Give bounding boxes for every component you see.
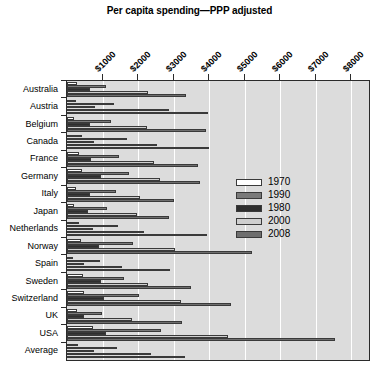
legend-swatch-1970 — [236, 179, 262, 186]
bar-uk-2008 — [67, 321, 182, 324]
x-axis-tick-labels: $1000$2000$3000$4000$5000$6000$7000$8000 — [0, 0, 379, 80]
y-axis-category-label: Norway — [27, 241, 58, 251]
y-axis-category-label: Germany — [21, 171, 58, 181]
gridline — [316, 81, 317, 360]
x-axis-tick-label: $2000 — [128, 49, 153, 74]
y-axis-category-label: Sweden — [25, 276, 58, 286]
y-axis-category-label: France — [30, 153, 58, 163]
bar-netherlands-2008 — [67, 234, 207, 237]
gridline — [209, 81, 210, 360]
chart-legend: 19701990198020002008 — [236, 176, 306, 241]
gridline — [351, 81, 352, 360]
legend-swatch-2008 — [236, 231, 262, 238]
bar-norway-2008 — [67, 251, 252, 254]
y-axis-category-label: Spain — [35, 258, 58, 268]
x-axis-tick-label: $5000 — [235, 49, 260, 74]
y-axis-category-label: Austria — [30, 101, 58, 111]
y-axis-category-label: Belgium — [25, 119, 58, 129]
y-axis-category-label: USA — [39, 328, 58, 338]
y-axis-category-label: Netherlands — [9, 223, 58, 233]
legend-item-2008: 2008 — [236, 228, 306, 240]
bar-belgium-2008 — [67, 129, 206, 132]
legend-label-2000: 2000 — [268, 215, 290, 227]
legend-swatch-2000 — [236, 218, 262, 225]
y-axis-category-label: Australia — [23, 84, 58, 94]
legend-item-2000: 2000 — [236, 215, 306, 227]
bar-spain-2008 — [67, 269, 170, 272]
x-axis-tick-label: $1000 — [92, 49, 117, 74]
y-axis-category-label: Italy — [41, 188, 58, 198]
x-axis-tick-label: $3000 — [164, 49, 189, 74]
gridline — [174, 81, 175, 360]
bar-average-2008 — [67, 356, 185, 359]
x-axis-tick-label: $7000 — [306, 49, 331, 74]
x-axis-tick-label: $6000 — [270, 49, 295, 74]
bar-canada-2008 — [67, 147, 209, 150]
bar-usa-2008 — [67, 338, 335, 341]
chart-root: Per capita spending—PPP adjusted $1000$2… — [0, 0, 379, 392]
bar-sweden-2008 — [67, 286, 191, 289]
y-axis-category-label: Average — [25, 345, 58, 355]
legend-item-1980: 1980 — [236, 202, 306, 214]
legend-item-1990: 1990 — [236, 189, 306, 201]
y-axis-category-label: Switzerland — [11, 293, 58, 303]
plot-area — [66, 80, 370, 361]
legend-label-1980: 1980 — [268, 202, 290, 214]
bar-switzerland-2008 — [67, 303, 231, 306]
bar-austria-2008 — [67, 112, 208, 115]
legend-label-1970: 1970 — [268, 176, 290, 188]
y-axis-category-label: Japan — [33, 206, 58, 216]
legend-swatch-1980 — [236, 205, 262, 212]
bar-italy-2008 — [67, 199, 174, 202]
x-axis-tick-label: $8000 — [341, 49, 366, 74]
y-axis-category-labels: AustraliaAustriaBelgiumCanadaFranceGerma… — [0, 80, 66, 361]
bar-australia-2008 — [67, 94, 186, 97]
gridline — [138, 81, 139, 360]
bar-japan-2008 — [67, 216, 169, 219]
legend-label-2008: 2008 — [268, 228, 290, 240]
legend-label-1990: 1990 — [268, 189, 290, 201]
bar-germany-2008 — [67, 181, 200, 184]
x-axis-tick-label: $4000 — [199, 49, 224, 74]
legend-item-1970: 1970 — [236, 176, 306, 188]
bar-france-2008 — [67, 164, 198, 167]
y-axis-category-label: UK — [45, 310, 58, 320]
y-axis-category-label: Canada — [26, 136, 58, 146]
legend-swatch-1990 — [236, 192, 262, 199]
